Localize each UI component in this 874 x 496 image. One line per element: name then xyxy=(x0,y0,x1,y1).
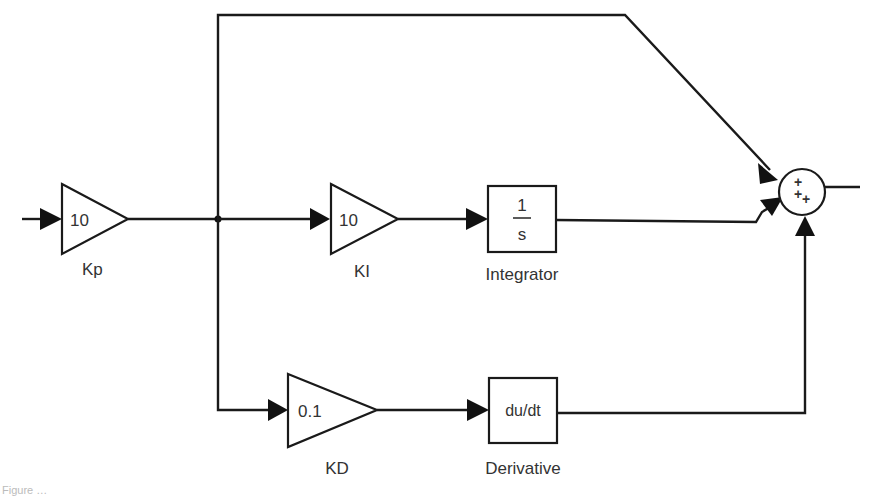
kd-input-wire xyxy=(218,219,270,410)
sum-sign-3: + xyxy=(802,191,810,207)
integrator-numerator: 1 xyxy=(517,196,526,215)
derivative-value: du/dt xyxy=(505,402,541,419)
ki-input-arrow xyxy=(310,208,330,230)
kd-input-arrow xyxy=(268,399,288,421)
derivative-block[interactable]: du/dt xyxy=(489,378,557,443)
integrator-label: Integrator xyxy=(486,265,559,284)
kd-label: KD xyxy=(325,459,349,478)
ki-value: 10 xyxy=(339,211,358,230)
kp-input-arrow xyxy=(40,208,62,230)
derivative-input-arrow xyxy=(467,399,489,421)
kd-gain-block[interactable]: 0.1 xyxy=(288,374,377,447)
derivative-output-wire xyxy=(557,232,805,413)
derivative-label: Derivative xyxy=(485,459,561,478)
kd-value: 0.1 xyxy=(298,402,322,421)
kp-label: Kp xyxy=(82,260,103,279)
integrator-denominator: s xyxy=(518,225,527,244)
integrator-input-arrow xyxy=(466,208,488,230)
sum-input-arrow-3 xyxy=(795,216,815,236)
integrator-output-wire xyxy=(556,206,772,222)
ki-gain-block[interactable]: 10 xyxy=(331,184,398,254)
ki-label: KI xyxy=(354,262,370,281)
integrator-block[interactable]: 1 s xyxy=(488,186,556,252)
figure-caption: Figure … xyxy=(2,484,47,496)
sum-block[interactable]: + + + xyxy=(779,169,825,215)
sum-sign-2: + xyxy=(794,186,802,202)
kp-value: 10 xyxy=(70,211,89,230)
kp-gain-block[interactable]: 10 xyxy=(62,184,128,254)
